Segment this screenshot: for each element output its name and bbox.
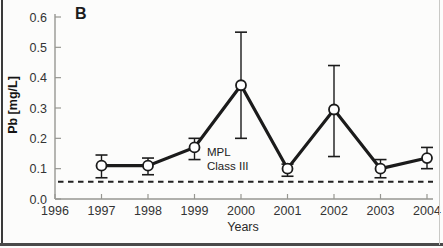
- x-tick-label: 2000: [227, 204, 255, 218]
- x-tick-label: 2004: [413, 204, 441, 218]
- x-tick-label: 1999: [181, 204, 209, 218]
- y-tick-label: 0.4: [30, 71, 47, 85]
- pb-line-chart: 0.00.10.20.30.40.50.61996199719981999200…: [0, 0, 443, 248]
- x-tick-label: 1996: [41, 204, 69, 218]
- figure-border-bottom: [0, 243, 443, 246]
- data-point-1999: [190, 142, 200, 152]
- y-axis-title: Pb [mg/L]: [6, 57, 22, 153]
- data-point-2002: [329, 105, 339, 115]
- x-tick-label: 1997: [88, 204, 116, 218]
- data-point-2000: [236, 80, 246, 90]
- data-point-2001: [283, 164, 293, 174]
- mpl-annotation-line1: MPL: [207, 145, 249, 159]
- data-point-1998: [143, 161, 153, 171]
- figure-panel: 0.00.10.20.30.40.50.61996199719981999200…: [0, 0, 443, 248]
- y-tick-label: 0.6: [30, 11, 47, 25]
- y-tick-label: 0.5: [30, 41, 47, 55]
- mpl-annotation-line2: Class III: [207, 159, 249, 173]
- x-tick-label: 1998: [134, 204, 162, 218]
- pb-series-line: [102, 85, 428, 168]
- figure-border-right: [439, 0, 440, 245]
- panel-label: B: [75, 5, 87, 23]
- mpl-class-iii-annotation: MPL Class III: [207, 145, 249, 173]
- x-axis-title: Years: [203, 220, 283, 234]
- x-tick-label: 2003: [367, 204, 395, 218]
- data-point-1997: [97, 161, 107, 171]
- y-tick-label: 0.1: [30, 162, 47, 176]
- figure-border-left: [1, 0, 3, 245]
- x-tick-label: 2002: [320, 204, 348, 218]
- x-tick-label: 2001: [274, 204, 302, 218]
- y-tick-label: 0.3: [30, 102, 47, 116]
- data-point-2004: [422, 153, 432, 163]
- data-point-2003: [376, 164, 386, 174]
- y-tick-label: 0.2: [30, 132, 47, 146]
